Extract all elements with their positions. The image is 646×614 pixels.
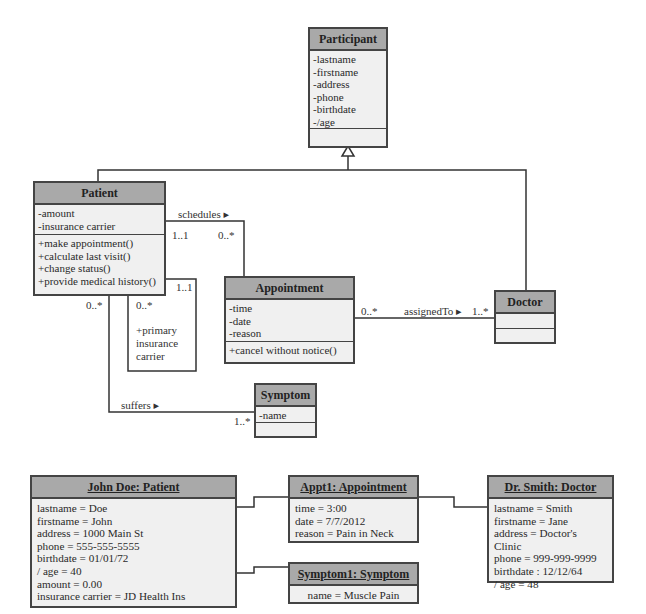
- slot-values: name = Muscle Pain: [290, 586, 417, 605]
- attributes-section: -amount -insurance carrier: [35, 205, 164, 235]
- slot-values: lastname = Doe firstname = John address …: [32, 499, 235, 606]
- slot-value: lastname = Smith: [494, 502, 607, 515]
- assignedto-source-multiplicity: 0..*: [361, 305, 378, 317]
- attribute: -firstname: [313, 66, 383, 79]
- suffers-label: suffers ▸: [121, 399, 159, 412]
- schedules-source-multiplicity: 1..1: [172, 229, 189, 241]
- object-symptom1[interactable]: Symptom1: Symptom name = Muscle Pain: [288, 562, 419, 604]
- role-line: +primary: [136, 324, 178, 337]
- operations-section: [310, 129, 386, 146]
- operation: +provide medical history(): [38, 275, 161, 288]
- schedules-label: schedules ▸: [178, 208, 229, 221]
- attribute: -date: [229, 315, 350, 328]
- operation: +make appointment(): [38, 237, 161, 250]
- slot-value: amount = 0.00: [37, 578, 230, 591]
- assignedto-label: assignedTo ▸: [404, 305, 462, 318]
- attribute: -lastname: [313, 53, 383, 66]
- operation: +change status(): [38, 262, 161, 275]
- object-title-text: Appt1: Appointment: [300, 480, 406, 495]
- operations-section: [256, 423, 315, 436]
- attributes-section: [496, 314, 554, 329]
- link-appt1-drsmith: [418, 497, 487, 507]
- slot-value: name = Muscle Pain: [295, 589, 412, 602]
- slot-value: firstname = Jane: [494, 515, 607, 528]
- attributes-section: -lastname -firstname -address -phone -bi…: [310, 51, 386, 129]
- role-line: carrier: [136, 350, 178, 363]
- slot-values: time = 3:00 date = 7/7/2012 reason = Pai…: [290, 499, 417, 543]
- attribute: -name: [259, 409, 312, 422]
- slot-value: firstname = John: [37, 515, 230, 528]
- schedules-target-multiplicity: 0..*: [218, 229, 235, 241]
- assignedto-target-multiplicity: 1..*: [472, 305, 489, 317]
- slot-value: date = 7/7/2012: [295, 515, 412, 528]
- role-line: insurance: [136, 337, 178, 350]
- insurance-role-label: +primary insurance carrier: [136, 324, 178, 363]
- slot-values: lastname = Smith firstname = Jane addres…: [489, 499, 612, 593]
- slot-value: / age = 48: [494, 578, 607, 591]
- object-john-doe[interactable]: John Doe: Patient lastname = Doe firstna…: [30, 475, 237, 608]
- slot-value: phone = 555-555-5555: [37, 540, 230, 553]
- slot-value: birthdate = 01/01/72: [37, 552, 230, 565]
- object-title: John Doe: Patient: [32, 477, 235, 499]
- slot-value: address = Doctor's Clinic: [494, 527, 607, 552]
- object-title: Dr. Smith: Doctor: [489, 477, 612, 499]
- operation: +calculate last visit(): [38, 250, 161, 263]
- object-dr-smith[interactable]: Dr. Smith: Doctor lastname = Smith first…: [487, 475, 614, 583]
- insurance-target-multiplicity: 0..*: [136, 299, 153, 311]
- operation: +cancel without notice(): [229, 344, 350, 357]
- attribute: -insurance carrier: [38, 220, 161, 233]
- slot-value: address = 1000 Main St: [37, 527, 230, 540]
- attribute: -reason: [229, 327, 350, 340]
- link-johndoe-appt1: [236, 497, 288, 507]
- class-appointment[interactable]: Appointment -time -date -reason +cancel …: [224, 276, 355, 364]
- operations-section: +cancel without notice(): [226, 342, 353, 359]
- slot-value: time = 3:00: [295, 502, 412, 515]
- class-participant[interactable]: Participant -lastname -firstname -addres…: [308, 27, 388, 148]
- slot-value: phone = 999-999-9999: [494, 552, 607, 565]
- class-name: Participant: [310, 29, 386, 51]
- class-name: Doctor: [496, 292, 554, 314]
- slot-value: / age = 40: [37, 565, 230, 578]
- slot-value: insurance carrier = JD Health Ins: [37, 590, 230, 603]
- suffers-source-multiplicity: 0..*: [86, 299, 103, 311]
- object-title-text: Symptom1: Symptom: [298, 567, 410, 582]
- class-doctor[interactable]: Doctor: [494, 290, 556, 344]
- attribute: -amount: [38, 207, 161, 220]
- suffers-target-multiplicity: 1..*: [234, 415, 251, 427]
- class-name: Patient: [35, 183, 164, 205]
- slot-value: reason = Pain in Neck: [295, 527, 412, 540]
- class-symptom[interactable]: Symptom -name: [254, 383, 317, 438]
- object-title: Appt1: Appointment: [290, 477, 417, 499]
- class-name: Symptom: [256, 385, 315, 407]
- attribute: -time: [229, 302, 350, 315]
- attributes-section: -name: [256, 407, 315, 423]
- object-title-text: John Doe: Patient: [88, 480, 180, 495]
- operations-section: +make appointment() +calculate last visi…: [35, 235, 164, 289]
- attributes-section: -time -date -reason: [226, 300, 353, 342]
- class-patient[interactable]: Patient -amount -insurance carrier +make…: [33, 181, 166, 296]
- attribute: -/age: [313, 116, 383, 129]
- insurance-source-multiplicity: 1..1: [176, 281, 193, 293]
- attribute: -address: [313, 78, 383, 91]
- class-name: Appointment: [226, 278, 353, 300]
- object-title-text: Dr. Smith: Doctor: [505, 480, 597, 495]
- attribute: -phone: [313, 91, 383, 104]
- attribute: -birthdate: [313, 103, 383, 116]
- slot-value: birthdate : 12/12/64: [494, 565, 607, 578]
- operations-section: [496, 329, 554, 342]
- link-johndoe-symptom1: [236, 567, 288, 573]
- object-title: Symptom1: Symptom: [290, 564, 417, 586]
- slot-value: lastname = Doe: [37, 502, 230, 515]
- object-appt1[interactable]: Appt1: Appointment time = 3:00 date = 7/…: [288, 475, 419, 543]
